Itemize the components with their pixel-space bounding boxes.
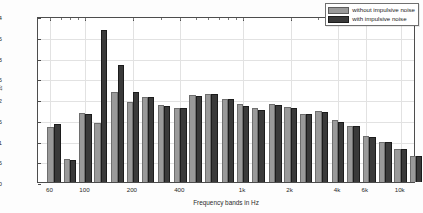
y-tick-label: 2.5: [0, 76, 2, 83]
bar: [322, 112, 328, 182]
bar: [148, 97, 154, 182]
bar-series-container: [38, 18, 414, 182]
bar: [369, 137, 375, 182]
y-tick-label: 4: [0, 14, 2, 21]
bar: [258, 110, 264, 182]
bar: [306, 114, 312, 182]
dark-swatch: [328, 16, 349, 23]
bar: [133, 92, 139, 182]
bar: [164, 106, 170, 182]
x-tick-label: 60: [46, 186, 53, 193]
plot-area: [37, 17, 415, 183]
y-tick-mark: [38, 184, 41, 185]
bar: [118, 65, 124, 182]
x-tick-label: 4k: [334, 186, 341, 193]
bar: [211, 94, 217, 182]
bar: [54, 124, 61, 183]
x-tick-label: 10k: [395, 186, 405, 193]
x-tick-label: 400: [174, 186, 184, 193]
figure-canvas: T20 in s 00.511.522.533.54 601002004001k…: [0, 0, 423, 213]
y-tick-label: 0.5: [0, 159, 2, 166]
bar: [416, 156, 422, 182]
legend-entry-label: with impulsive noise: [352, 15, 406, 23]
bar: [338, 122, 344, 182]
bar: [70, 160, 76, 182]
bar: [243, 106, 249, 182]
y-tick-label: 1.5: [0, 117, 2, 124]
bar: [401, 149, 407, 182]
bar: [353, 126, 359, 182]
bar: [180, 108, 186, 182]
bar: [85, 114, 91, 182]
bar: [291, 108, 297, 182]
bar: [47, 127, 54, 182]
bar: [275, 105, 281, 182]
legend-entry: without impulsive noise: [328, 6, 415, 14]
y-tick-label: 1: [0, 138, 2, 145]
bar: [101, 30, 107, 182]
x-axis-label: Frequency bands in Hz: [193, 199, 259, 206]
y-tick-label: 2: [0, 97, 2, 104]
y-tick-label: 3: [0, 55, 2, 62]
x-tick-label: 2k: [286, 186, 293, 193]
legend-entry: with impulsive noise: [328, 15, 415, 23]
y-axis-label-subscript: 20: [0, 85, 3, 90]
legend-entry-label: without impulsive noise: [352, 6, 415, 14]
y-tick-label: 0: [0, 180, 2, 187]
gray-swatch: [328, 7, 349, 14]
x-tick-label: 100: [79, 186, 89, 193]
bar: [228, 99, 234, 182]
x-tick-label: 200: [127, 186, 137, 193]
bar: [385, 142, 391, 182]
bar: [196, 96, 202, 182]
y-tick-label: 3.5: [0, 34, 2, 41]
legend: without impulsive noise with impulsive n…: [325, 3, 419, 26]
x-tick-label: 1k: [239, 186, 246, 193]
x-tick-label: 6k: [361, 186, 368, 193]
